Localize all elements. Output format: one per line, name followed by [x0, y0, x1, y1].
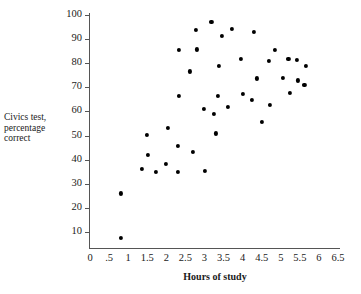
scatter-plot-figure: Civics test, percentage correct 10203040… [0, 0, 361, 294]
x-tick-label: 4 [240, 252, 245, 263]
y-axis-tick-labels: 102030405060708090100 [18, 0, 82, 294]
y-tick-mark [85, 39, 89, 40]
x-tick-label: 3.5 [217, 252, 230, 263]
x-tick-label: .5 [105, 252, 113, 263]
y-tick-mark [85, 232, 89, 233]
y-tick-label: 70 [22, 80, 82, 91]
y-tick-label: 10 [22, 225, 82, 236]
y-tick-mark [85, 208, 89, 209]
y-tick-label: 50 [22, 129, 82, 140]
x-tick-label: 0 [87, 252, 92, 263]
x-tick-label: 3 [202, 252, 207, 263]
y-tick-label: 80 [22, 56, 82, 67]
x-tick-label: 4.5 [255, 252, 268, 263]
x-tick-label: 6.5 [331, 252, 344, 263]
y-tick-label: 40 [22, 153, 82, 164]
y-tick-mark [85, 111, 89, 112]
y-tick-label: 30 [22, 177, 82, 188]
x-tick-label: 2.5 [179, 252, 192, 263]
x-tick-label: 1.5 [141, 252, 154, 263]
y-tick-label: 20 [22, 201, 82, 212]
x-tick-label: 6 [316, 252, 321, 263]
y-tick-mark [85, 136, 89, 137]
y-tick-label: 60 [22, 104, 82, 115]
y-tick-mark [85, 184, 89, 185]
y-tick-mark [85, 87, 89, 88]
y-tick-mark [85, 15, 89, 16]
x-tick-label: 2 [164, 252, 169, 263]
y-tick-mark [85, 160, 89, 161]
y-tick-mark [85, 63, 89, 64]
x-axis-tick-labels: 0.511.522.533.544.555.566.5 [0, 252, 361, 268]
y-tick-label: 100 [22, 8, 82, 19]
x-tick-label: 1 [126, 252, 131, 263]
x-tick-label: 5 [278, 252, 283, 263]
x-axis-line [89, 248, 340, 249]
x-axis-title: Hours of study [90, 271, 340, 282]
x-tick-label: 5.5 [293, 252, 306, 263]
y-tick-label: 90 [22, 32, 82, 43]
